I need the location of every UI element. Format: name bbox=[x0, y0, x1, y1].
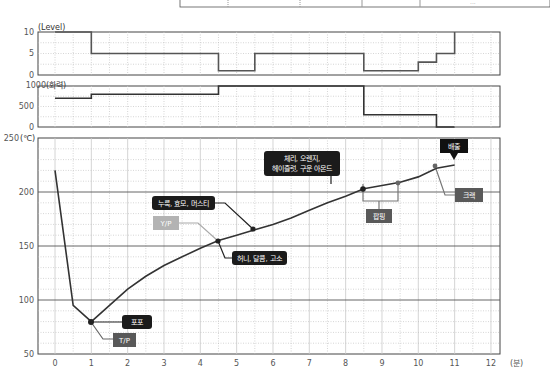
time-tick: 3 bbox=[161, 359, 166, 368]
temp-tick: 250 bbox=[4, 134, 19, 143]
table-cell-text: ... bbox=[470, 0, 476, 5]
temp-tick: 50 bbox=[24, 350, 34, 359]
temp-tick: 200 bbox=[19, 188, 34, 197]
time-tick: 0 bbox=[52, 359, 57, 368]
svg-text:헤이즐럿, 구운 아몬드: 헤이즐럿, 구운 아몬드 bbox=[272, 164, 334, 173]
time-tick: 7 bbox=[307, 359, 312, 368]
heat-tick: 1000 bbox=[26, 81, 46, 90]
time-tick: 8 bbox=[343, 359, 348, 368]
temperature-chart: (℃) 250 200 150 100 50 0123456789101112 … bbox=[4, 134, 524, 368]
label-yp: Y/P bbox=[153, 216, 179, 230]
label-cherry: 체리, 오렌지, 헤이즐럿, 구운 아몬드 bbox=[264, 151, 340, 176]
time-tick: 9 bbox=[379, 359, 384, 368]
time-tick: 6 bbox=[270, 359, 275, 368]
level-tick: 10 bbox=[24, 28, 34, 37]
time-unit-label: (분) bbox=[510, 359, 523, 368]
heat-tick: 500 bbox=[19, 102, 34, 111]
tp-marker bbox=[88, 319, 94, 325]
temp-unit-label: (℃) bbox=[20, 134, 35, 143]
time-tick: 5 bbox=[234, 359, 239, 368]
first-popping-marker bbox=[360, 186, 366, 192]
roast-profile-figure: ... (Level) 10 5 0 (화력) 1000 500 0 (℃) 2… bbox=[0, 0, 550, 383]
heat-tick: 0 bbox=[29, 123, 34, 132]
label-yeast: 누룩, 효모, 머스티 bbox=[152, 196, 215, 210]
label-honey: 허니, 달콤, 고소 bbox=[232, 251, 287, 265]
svg-text:누룩, 효모, 머스티: 누룩, 효모, 머스티 bbox=[158, 199, 209, 208]
level-tick: 5 bbox=[29, 49, 34, 58]
yp-marker bbox=[215, 238, 220, 243]
label-crack: 크랙 bbox=[455, 188, 483, 202]
label-tp: T/P bbox=[113, 333, 136, 347]
svg-text:포포: 포포 bbox=[131, 319, 144, 327]
crack-marker bbox=[433, 164, 438, 169]
svg-text:Y/P: Y/P bbox=[160, 220, 172, 228]
heat-unit-label: (화력) bbox=[46, 80, 66, 90]
svg-text:크랙: 크랙 bbox=[463, 191, 475, 200]
header-table-fragment: ... bbox=[180, 0, 550, 7]
level-tick: 0 bbox=[29, 71, 34, 80]
time-tick: 2 bbox=[125, 359, 130, 368]
aroma-marker bbox=[250, 226, 255, 231]
temp-tick: 100 bbox=[19, 296, 34, 305]
svg-text:허니, 달콤, 고소: 허니, 달콤, 고소 bbox=[237, 254, 283, 263]
time-tick: 4 bbox=[198, 359, 203, 368]
heat-power-chart: (화력) 1000 500 0 bbox=[19, 80, 500, 132]
svg-text:T/P: T/P bbox=[118, 337, 130, 345]
level-unit-label: (Level) bbox=[38, 23, 65, 32]
svg-text:체리, 오렌지,: 체리, 오렌지, bbox=[284, 154, 321, 163]
time-tick: 1 bbox=[89, 359, 94, 368]
label-popo: 포포 bbox=[122, 315, 152, 329]
popping-end-marker bbox=[396, 181, 401, 186]
temp-tick: 150 bbox=[19, 242, 34, 251]
level-chart: (Level) 10 5 0 bbox=[24, 23, 500, 80]
time-tick: 11 bbox=[450, 359, 460, 368]
time-tick: 12 bbox=[486, 359, 496, 368]
svg-text:팝핑: 팝핑 bbox=[373, 212, 385, 221]
time-tick: 10 bbox=[413, 359, 423, 368]
svg-text:배출: 배출 bbox=[448, 142, 461, 151]
label-popping: 팝핑 bbox=[366, 209, 392, 223]
